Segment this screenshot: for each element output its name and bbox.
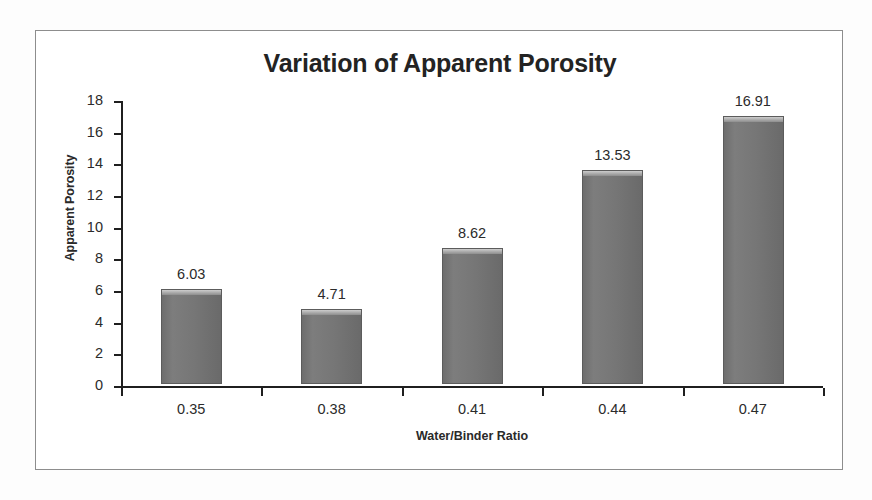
bar-slot: 4.71 bbox=[261, 99, 401, 384]
scanned-page-background: Variation of Apparent Porosity Apparent … bbox=[0, 0, 872, 500]
bar-slot: 8.62 bbox=[402, 99, 542, 384]
y-axis-tick-label: 14 bbox=[87, 155, 103, 171]
y-axis-tick: 6 bbox=[114, 291, 121, 293]
bar-top-highlight bbox=[302, 310, 361, 315]
bar-top-highlight bbox=[162, 290, 221, 295]
bar-top-highlight bbox=[724, 117, 783, 122]
x-axis-category-label: 0.35 bbox=[121, 401, 261, 417]
y-axis-tick: 18 bbox=[114, 101, 121, 103]
y-axis-tick-label: 18 bbox=[87, 92, 103, 108]
bar-slot: 16.91 bbox=[683, 99, 823, 384]
y-axis-tick-label: 10 bbox=[87, 219, 103, 235]
y-axis-title: Apparent Porosity bbox=[63, 138, 77, 278]
bar[interactable] bbox=[301, 309, 362, 384]
bar-slot: 6.03 bbox=[121, 99, 261, 384]
y-axis-tick-label: 0 bbox=[95, 377, 103, 393]
x-axis-category-label: 0.41 bbox=[402, 401, 542, 417]
y-axis-tick: 8 bbox=[114, 259, 121, 261]
y-axis-tick: 2 bbox=[114, 354, 121, 356]
y-axis-tick-label: 6 bbox=[95, 282, 103, 298]
y-axis-tick: 12 bbox=[114, 196, 121, 198]
bar-top-highlight bbox=[583, 171, 642, 176]
bar-slot: 13.53 bbox=[542, 99, 682, 384]
bar-value-label: 4.71 bbox=[261, 286, 401, 302]
y-axis-tick: 4 bbox=[114, 323, 121, 325]
x-axis-category-label: 0.47 bbox=[683, 401, 823, 417]
chart-frame: Variation of Apparent Porosity Apparent … bbox=[35, 30, 843, 470]
bar[interactable] bbox=[723, 116, 784, 384]
bar-value-label: 6.03 bbox=[121, 266, 261, 282]
y-axis-tick: 16 bbox=[114, 133, 121, 135]
y-axis-tick-label: 16 bbox=[87, 124, 103, 140]
x-axis-line bbox=[121, 386, 823, 388]
bar[interactable] bbox=[161, 289, 222, 384]
y-axis-tick-label: 12 bbox=[87, 187, 103, 203]
bar-value-label: 16.91 bbox=[683, 93, 823, 109]
x-axis-tick bbox=[823, 388, 825, 396]
bar-value-label: 13.53 bbox=[542, 147, 682, 163]
y-axis-tick: 10 bbox=[114, 228, 121, 230]
y-axis-tick: 0 bbox=[114, 386, 121, 388]
x-axis-title: Water/Binder Ratio bbox=[121, 429, 823, 443]
plot-area: 181614121086420 6.034.718.6213.5316.91 0… bbox=[121, 101, 823, 386]
x-axis-tick bbox=[261, 388, 263, 396]
x-axis-tick bbox=[683, 388, 685, 396]
x-axis-tick bbox=[121, 388, 123, 396]
x-axis-tick bbox=[542, 388, 544, 396]
x-axis-tick bbox=[402, 388, 404, 396]
bar-value-label: 8.62 bbox=[402, 225, 542, 241]
y-axis-tick-label: 8 bbox=[95, 250, 103, 266]
bar[interactable] bbox=[442, 248, 503, 384]
x-axis-category-label: 0.44 bbox=[542, 401, 682, 417]
y-axis-tick: 14 bbox=[114, 164, 121, 166]
y-axis-tick-label: 2 bbox=[95, 345, 103, 361]
bar-top-highlight bbox=[443, 249, 502, 254]
y-axis-tick-label: 4 bbox=[95, 314, 103, 330]
bar[interactable] bbox=[582, 170, 643, 384]
x-axis-category-label: 0.38 bbox=[261, 401, 401, 417]
chart-title: Variation of Apparent Porosity bbox=[36, 49, 844, 78]
